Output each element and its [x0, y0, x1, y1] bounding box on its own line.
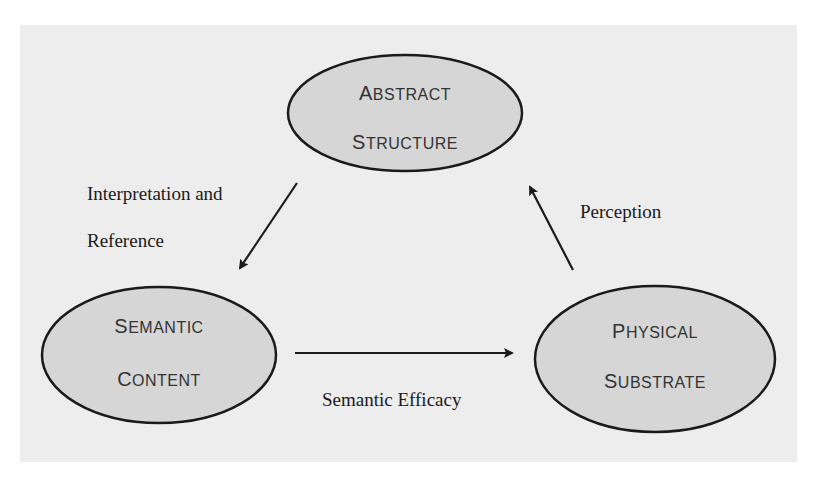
edge-label-perception: Perception [580, 201, 662, 222]
node-abstract-line2: STRUCTURE [352, 131, 458, 153]
node-abstract-structure: ABSTRACT STRUCTURE [288, 55, 522, 171]
edge-perception: Perception [530, 187, 662, 270]
node-physical-line2: SUBSTRATE [604, 370, 706, 392]
node-semantic-content: SEMANTIC CONTENT [42, 287, 276, 423]
edge-label-interpretation: Interpretation and [87, 183, 223, 204]
node-semantic-line1: SEMANTIC [114, 315, 203, 337]
arrow-icon [530, 187, 573, 270]
edge-label-semantic-efficacy: Semantic Efficacy [322, 389, 462, 410]
node-abstract-line1: ABSTRACT [359, 82, 451, 104]
edge-semantic-efficacy: Semantic Efficacy [295, 353, 512, 410]
node-physical-substrate: PHYSICAL SUBSTRATE [535, 286, 775, 432]
node-semantic-line2: CONTENT [117, 368, 201, 390]
node-physical-line1: PHYSICAL [612, 320, 698, 342]
arrow-icon [240, 183, 297, 268]
edge-label-reference: Reference [87, 230, 164, 251]
edge-interpretation-reference: Interpretation and Reference [87, 183, 297, 268]
diagram-canvas: ABSTRACT STRUCTURE SEMANTIC CONTENT PHYS… [0, 0, 813, 480]
